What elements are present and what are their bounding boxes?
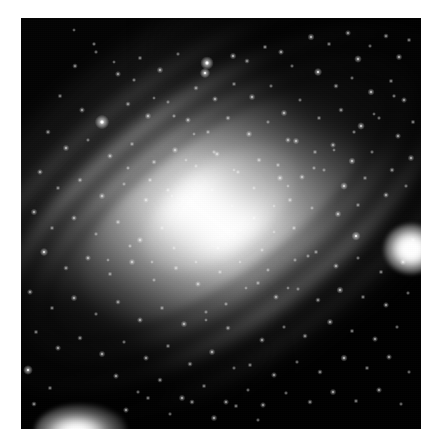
galaxy-bulge (123, 121, 316, 295)
image-alt-text: Grayscale telescope image of a large inc… (0, 0, 1, 1)
galaxy-core (165, 159, 273, 257)
astronomy-photograph (21, 18, 421, 429)
dust-lane-nuclear (21, 24, 421, 389)
image-canvas: Grayscale telescope image of a large inc… (0, 0, 442, 448)
galaxy-inner-disc (46, 53, 393, 362)
